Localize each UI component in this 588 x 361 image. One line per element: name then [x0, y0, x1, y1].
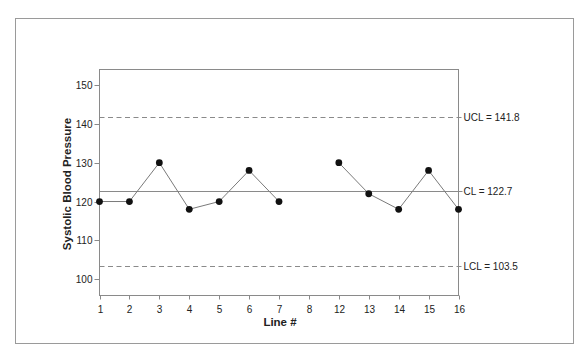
x-tick-label: 2: [127, 304, 133, 315]
y-tick-label: 110: [77, 235, 93, 246]
x-tick-label: 16: [454, 304, 466, 315]
y-tick-label: 150: [76, 80, 93, 91]
x-tick-label: 3: [157, 304, 163, 315]
y-axis: 100110120130140150: [76, 80, 100, 285]
data-point: [365, 190, 372, 197]
x-tick-label: 13: [364, 304, 376, 315]
x-tick-label: 6: [247, 304, 253, 315]
y-tick-label: 100: [76, 274, 93, 285]
data-point: [335, 159, 342, 166]
x-tick-label: 15: [424, 304, 436, 315]
data-point: [156, 159, 163, 166]
x-axis: 123456781213141516: [98, 296, 466, 315]
data-series: [96, 159, 462, 212]
control-limits: UCL = 141.8CL = 122.7LCL = 103.5: [100, 112, 520, 272]
x-tick-label: 4: [187, 304, 193, 315]
data-point: [425, 167, 432, 174]
x-tick-label: 5: [217, 304, 223, 315]
x-tick-label: 12: [334, 304, 346, 315]
y-tick-label: 140: [76, 119, 93, 130]
lcl-label: LCL = 103.5: [464, 261, 519, 272]
cl-label: CL = 122.7: [464, 186, 513, 197]
data-point: [96, 198, 103, 205]
data-point: [216, 198, 223, 205]
x-tick-label: 1: [98, 304, 104, 315]
y-tick-label: 130: [76, 158, 93, 169]
data-point: [455, 206, 462, 213]
x-axis-title: Line #: [263, 316, 297, 328]
data-point: [246, 167, 253, 174]
data-point: [186, 206, 193, 213]
y-axis-title: Systolic Blood Pressure: [61, 118, 73, 250]
x-tick-label: 7: [277, 304, 283, 315]
x-tick-label: 8: [307, 304, 313, 315]
plot-border: [100, 70, 459, 296]
x-tick-label: 14: [394, 304, 406, 315]
control-chart: UCL = 141.8CL = 122.7LCL = 103.5 1001101…: [0, 0, 588, 361]
series-line: [339, 163, 459, 210]
ucl-label: UCL = 141.8: [464, 112, 520, 123]
data-point: [126, 198, 133, 205]
data-point: [276, 198, 283, 205]
data-point: [395, 206, 402, 213]
y-tick-label: 120: [76, 197, 93, 208]
plot-area: [100, 70, 459, 296]
